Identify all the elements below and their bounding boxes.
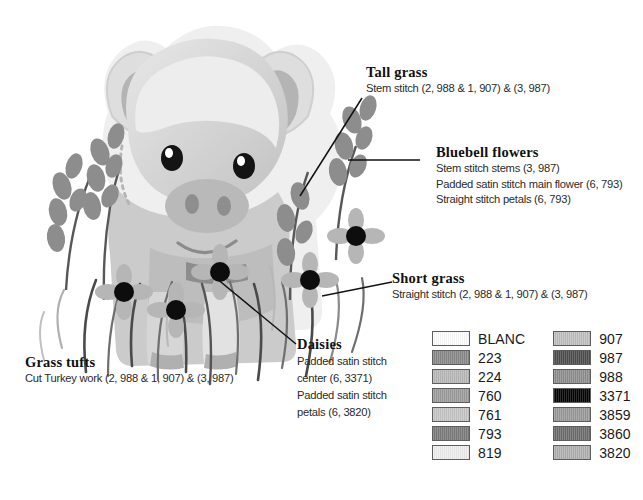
legend-row: 988 [553,368,631,385]
bluebell-bell [45,223,67,253]
legend-row: 3820 [553,444,631,461]
legend-row: 819 [432,444,525,461]
legend-row: BLANC [432,330,525,347]
legend-column-right: 907 987 988 3371 3859 3860 [553,330,631,461]
colour-swatch [553,350,591,365]
colour-swatch [432,369,470,384]
legend-label: 3371 [599,388,631,404]
callout-title: Bluebell flowers [436,144,623,161]
legend-label: 3860 [599,426,631,442]
callout-line: Padded satin stitch center (6, 3371) [297,353,415,387]
legend-row: 3371 [553,387,631,404]
daisy-center [346,226,366,246]
legend-row: 761 [432,406,525,423]
bluebell-bell [84,162,108,194]
pig-left-eye [161,145,183,171]
legend-row: 3859 [553,406,631,423]
legend-column-left: BLANC 223 224 760 761 793 [432,330,525,461]
callout-title: Short grass [392,270,587,287]
colour-swatch [553,331,591,346]
callout-bluebell-flowers: Bluebell flowers Stem stitch stems (3, 9… [436,144,623,208]
legend-row: 760 [432,387,525,404]
callout-line: Padded satin stitch petals (6, 3820) [297,387,415,421]
colour-swatch [553,369,591,384]
legend-row: 987 [553,349,631,366]
colour-swatch [432,331,470,346]
legend-label: 907 [599,331,623,347]
legend-row: 907 [553,330,631,347]
callout-tall-grass: Tall grass Stem stitch (2, 988 & 1, 907)… [366,64,550,97]
legend-label: 988 [599,369,623,385]
callout-line: Straight stitch (2, 988 & 1, 907) & (3, … [392,287,587,303]
grass-blade [57,290,64,348]
pig-right-eye-glint [237,156,245,166]
legend-label: 793 [478,426,502,442]
embroidery-pattern-page: Tall grass Stem stitch (2, 988 & 1, 907)… [0,0,643,500]
callout-short-grass: Short grass Straight stitch (2, 988 & 1,… [392,270,587,303]
colour-swatch [553,445,591,460]
callout-grass-tufts: Grass tufts Cut Turkey work (2, 988 & 1,… [25,354,234,387]
callout-daisies: Daisies Padded satin stitch center (6, 3… [297,336,415,421]
colour-swatch [432,445,470,460]
pig-snout [165,179,249,233]
thread-colour-legend: BLANC 223 224 760 761 793 [432,330,631,461]
callout-line: Stem stitch (2, 988 & 1, 907) & (3, 987) [366,81,550,97]
callout-title: Grass tufts [25,354,234,371]
legend-label: 819 [478,445,502,461]
colour-swatch [553,426,591,441]
pig-right-eye [233,153,255,179]
callout-line: Stem stitch stems (3, 987) [436,161,623,177]
pig-left-eye-glint [165,148,173,158]
legend-label: 3859 [599,407,631,423]
legend-label: 761 [478,407,502,423]
legend-row: 223 [432,349,525,366]
legend-label: 3820 [599,445,631,461]
callout-line: Straight stitch petals (6, 793) [436,192,623,208]
pig-right-nostril [217,196,231,216]
legend-label: 224 [478,369,502,385]
grass-blade [40,312,44,360]
callout-line: Cut Turkey work (2, 988 & 1, 907) & (3, … [25,371,234,387]
colour-swatch [432,350,470,365]
colour-swatch [553,407,591,422]
colour-swatch [432,426,470,441]
legend-label: 223 [478,350,502,366]
callout-title: Tall grass [366,64,550,81]
callout-line: Padded satin stitch main flower (6, 793) [436,177,623,193]
legend-row: 3860 [553,425,631,442]
daisy-center [114,282,134,302]
colour-swatch [432,388,470,403]
legend-row: 793 [432,425,525,442]
legend-row: 224 [432,368,525,385]
callout-title: Daisies [297,336,415,353]
daisy-center [166,300,186,320]
legend-label: 987 [599,350,623,366]
colour-swatch [553,388,591,403]
daisy-center [210,262,230,282]
colour-swatch [432,407,470,422]
daisy-center [300,270,320,290]
pig-left-nostril [185,194,199,214]
bluebell-bell [46,196,69,227]
legend-label: 760 [478,388,502,404]
legend-label: BLANC [478,331,525,347]
